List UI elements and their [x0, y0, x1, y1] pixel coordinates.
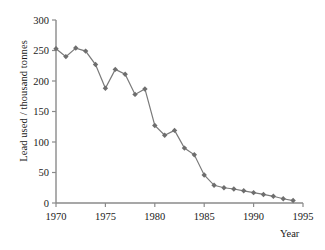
x-axis-tick-label: 1980	[144, 211, 165, 222]
x-axis-tick-label: 1975	[95, 211, 116, 222]
data-point-marker	[281, 196, 286, 201]
x-axis-tick-label: 1970	[46, 211, 67, 222]
y-axis-tick-label: 0	[44, 198, 49, 209]
y-axis-tick-label: 300	[33, 15, 49, 26]
x-axis-tick-label: 1995	[293, 211, 314, 222]
data-point-marker	[241, 188, 246, 193]
y-axis-tick-label: 250	[33, 45, 49, 56]
x-axis-tick-label: 1985	[194, 211, 215, 222]
y-axis-tick-label: 150	[33, 106, 49, 117]
data-point-marker	[132, 92, 137, 97]
data-line	[56, 48, 293, 201]
y-axis-tick-label: 200	[33, 76, 49, 87]
data-point-marker	[103, 86, 108, 91]
data-point-marker	[172, 128, 177, 133]
data-point-marker	[251, 190, 256, 195]
data-point-marker	[221, 185, 226, 190]
data-point-marker	[261, 192, 266, 197]
data-markers	[53, 45, 296, 203]
x-axis-ticks: 197019751980198519901995	[46, 203, 314, 222]
data-point-marker	[142, 86, 147, 91]
data-point-marker	[271, 194, 276, 199]
data-point-marker	[122, 72, 127, 77]
chart-figure: Lead used / thousand tonnes Year 0501001…	[0, 0, 325, 250]
y-axis-tick-label: 100	[33, 137, 49, 148]
line-chart-plot: 050100150200250300 197019751980198519901…	[0, 0, 325, 250]
x-axis-tick-label: 1990	[243, 211, 264, 222]
y-axis-tick-label: 50	[39, 167, 50, 178]
data-point-marker	[113, 67, 118, 72]
data-point-marker	[231, 186, 236, 191]
y-axis-ticks: 050100150200250300	[33, 15, 56, 209]
